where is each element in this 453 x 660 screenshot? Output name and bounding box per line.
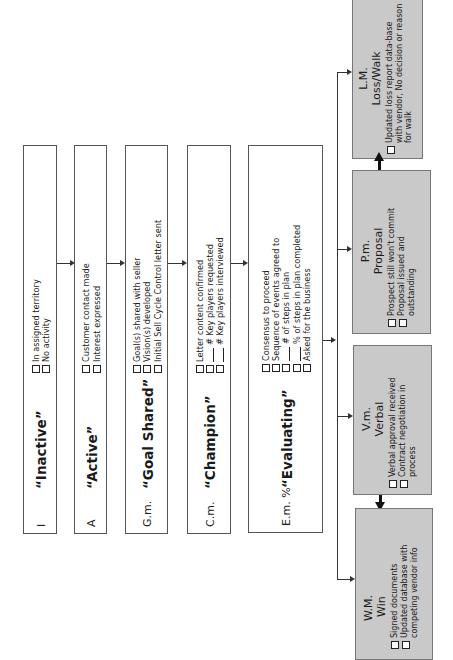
checklist-item: Updated loss report data-base with vendo… [385, 3, 414, 154]
checkbox[interactable] [272, 364, 280, 372]
checklist-item: Consensus to proceed [261, 146, 271, 372]
outcome-loss-walk: L.M. Loss/Walk Updated loss report data-… [352, 0, 423, 159]
connector-inactive-active [57, 263, 71, 264]
outcome-title: Proposal [372, 175, 385, 327]
arrow-icon [70, 260, 75, 266]
stage-code: G.m. [141, 489, 154, 534]
checklist-item: # of steps in plan [281, 146, 291, 372]
outcome-title: Verbal [373, 350, 386, 488]
stage-code: C.m. [204, 489, 217, 534]
checklist-item: # Key players interviewed [215, 146, 225, 373]
checkbox[interactable] [388, 319, 396, 327]
checklist-item: In assigned territory [31, 146, 41, 373]
outcome-proposal: P.m. Proposal Prospect still won't commi… [352, 170, 431, 334]
stage-code: I [35, 489, 48, 534]
checkbox[interactable] [42, 365, 50, 373]
checkbox[interactable] [389, 480, 397, 488]
connector-active-goal [107, 263, 121, 264]
checklist-item: Initial Sell Cycle Control letter sent [153, 146, 163, 373]
checkbox[interactable] [154, 365, 162, 373]
checklist-item: Asked for the business [302, 146, 312, 372]
outcome-code: V.m. [360, 350, 373, 488]
stage-inactive: I “Inactive” In assigned territory No ac… [23, 145, 57, 534]
stage-champion: C.m. “Champion” Letter content confirmed… [187, 145, 231, 534]
checkbox[interactable] [399, 319, 407, 327]
checklist-item: Updated database with competing vendor i… [400, 513, 419, 649]
outcome-title: Win [375, 513, 388, 649]
arrow-icon [120, 260, 125, 266]
outcome-bracket [337, 72, 338, 580]
stage-code: A [85, 489, 98, 534]
outcome-win: W.M. Win Signed documents Updated databa… [355, 508, 433, 660]
branch-win [337, 579, 351, 580]
outcome-code: W.M. [362, 513, 375, 649]
outcome-code: P.m. [359, 175, 372, 327]
fill-in-blank[interactable] [282, 347, 290, 361]
stage-title: “Inactive” [33, 379, 49, 489]
stage-title: “Champion” [202, 379, 218, 489]
checkbox[interactable] [262, 364, 270, 372]
checklist-item: Verbal approval received [388, 350, 398, 488]
arrow-icon [243, 260, 248, 266]
checklist-item: Proposal issued and outstanding [397, 175, 416, 327]
checklist-item: Customer contact made [81, 146, 91, 373]
checklist-item: Contract negotiation in process [398, 350, 417, 488]
checklist-item: % of steps in plan completed [292, 146, 302, 372]
outcome-verbal: V.m. Verbal Verbal approval received Con… [353, 345, 432, 495]
checklist-item: No activity [41, 146, 51, 373]
arrow-icon [182, 260, 187, 266]
checkbox[interactable] [402, 641, 410, 649]
stage-checklist: Consensus to proceed Sequence of events … [261, 146, 312, 378]
checkbox[interactable] [32, 365, 40, 373]
stage-title: “Active” [84, 379, 100, 489]
checkbox[interactable] [143, 365, 151, 373]
arrow-up-icon [374, 152, 384, 161]
checklist-item: Goal(s) shared with seller [132, 146, 142, 373]
checkbox[interactable] [387, 146, 395, 154]
checkbox[interactable] [93, 365, 101, 373]
checkbox[interactable] [206, 365, 214, 373]
connector-goal-champion [168, 263, 183, 264]
stage-evaluating: E.m. % “Evaluating” Consensus to proceed… [248, 145, 323, 533]
stage-checklist: Goal(s) shared with seller Vision(s) dev… [132, 146, 163, 379]
checkbox[interactable] [400, 480, 408, 488]
arrow-icon [331, 337, 336, 343]
outcome-code: L.M. [357, 3, 370, 154]
checklist-item: # Key players requested [205, 146, 215, 373]
checklist-item: Interest expressed [92, 146, 102, 373]
fill-in-blank[interactable] [206, 348, 214, 362]
checkbox[interactable] [293, 364, 301, 372]
stage-code: E.m. % [280, 488, 293, 533]
checkbox[interactable] [216, 365, 224, 373]
stage-title: “Goal Shared” [140, 379, 156, 489]
stage-goal-shared: G.m. “Goal Shared” Goal(s) shared with s… [125, 145, 168, 534]
checkbox[interactable] [303, 364, 311, 372]
stage-checklist: In assigned territory No activity [31, 146, 51, 379]
outcome-title: Loss/Walk [370, 3, 383, 154]
stage-title: “Evaluating” [279, 378, 295, 488]
checkbox[interactable] [282, 364, 290, 372]
stage-active: A “Active” Customer contact made Interes… [74, 145, 107, 534]
checkbox[interactable] [196, 365, 204, 373]
stage-checklist: Letter content confirmed # Key players r… [195, 146, 226, 379]
checkbox[interactable] [133, 365, 141, 373]
checkbox[interactable] [82, 365, 90, 373]
checkbox[interactable] [391, 641, 399, 649]
checklist-item: Vision(s) developed [142, 146, 152, 373]
stage-checklist: Customer contact made Interest expressed [81, 146, 101, 379]
checklist-item: Prospect still won't commit [387, 175, 397, 327]
fill-in-blank[interactable] [216, 348, 224, 362]
checklist-item: Letter content confirmed [195, 146, 205, 373]
fill-in-blank[interactable] [293, 347, 301, 361]
checklist-item: Sequence of events agreed to [271, 146, 281, 372]
checklist-item: Signed documents [390, 513, 400, 649]
